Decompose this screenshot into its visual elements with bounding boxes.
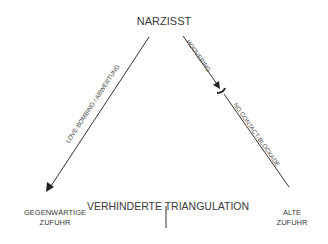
left-edge-line <box>51 37 149 186</box>
node-narzisst: NARZISST <box>0 15 328 27</box>
node-right-line1: ALTE <box>272 208 312 218</box>
node-alte-zufuhr: ALTE ZUFUHR <box>272 208 312 228</box>
blockade-bar-icon <box>217 88 225 93</box>
node-right-line2: ZUFUHR <box>272 218 312 228</box>
triangulation-diagram: NARZISST VERHINDERTE TRIANGULATION GEGEN… <box>0 0 328 244</box>
right-arrowhead-icon <box>213 81 220 89</box>
node-gegenwaertige-zufuhr: GEGENWÄRTIGE ZUFUHR <box>14 208 96 228</box>
node-left-line2: ZUFUHR <box>14 218 96 228</box>
node-left-line1: GEGENWÄRTIGE <box>14 208 96 218</box>
